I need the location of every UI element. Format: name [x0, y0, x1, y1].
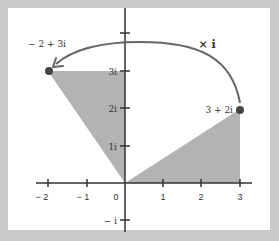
operation-label: × i [198, 38, 215, 51]
y-tick-label: − i [104, 216, 117, 226]
point-label-original: 3 + 2i [205, 105, 233, 115]
point-label-rotated: − 2 + 3i [28, 39, 66, 49]
x-tick-label: − 1 [77, 192, 90, 202]
x-tick-label: 2 [198, 192, 203, 202]
y-tick-label: 3i [108, 67, 117, 77]
x-tick-label: − 2 [36, 192, 49, 202]
x-tick-label: 3 [237, 192, 242, 202]
point-original [236, 106, 244, 114]
y-tick-label: 2i [108, 104, 117, 114]
x-tick-label: 1 [160, 192, 165, 202]
triangle-original [125, 109, 240, 183]
x-tick-label: 0 [113, 192, 118, 202]
complex-plane: − 2 − 1 0 1 2 3 3i 2i 1i − i × i 3 + 2i … [0, 0, 279, 241]
point-rotated [45, 67, 53, 75]
triangle-rotated [48, 71, 125, 183]
y-tick-label: 1i [108, 142, 117, 152]
